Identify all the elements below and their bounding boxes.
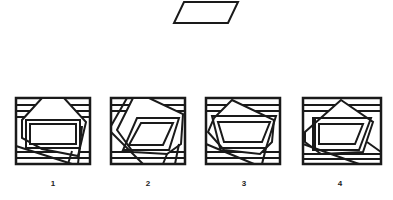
option-figure-4[interactable] — [301, 96, 379, 166]
target-parallelogram — [172, 0, 240, 26]
option-label-3: 3 — [234, 179, 254, 188]
option-label-2: 2 — [138, 179, 158, 188]
option-label-1: 1 — [43, 179, 63, 188]
option-figure-1[interactable] — [14, 96, 92, 166]
option-figure-2[interactable] — [109, 96, 187, 166]
option-figure-3[interactable] — [204, 96, 282, 166]
option-label-4: 4 — [330, 179, 350, 188]
